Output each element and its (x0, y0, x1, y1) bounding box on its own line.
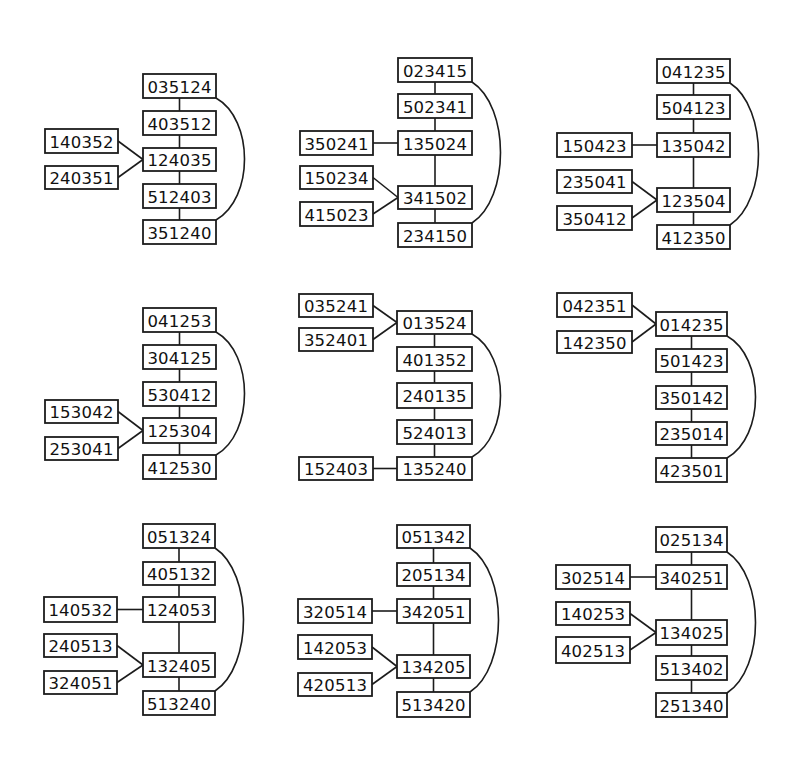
node-label: 302514 (561, 569, 625, 588)
graph-node: 125304 (143, 418, 216, 443)
node-label: 513240 (147, 695, 211, 714)
edge-s2-d (372, 647, 397, 667)
node-label: 513402 (659, 660, 723, 679)
diagram-8: 0513422051343420511342055134203205141420… (298, 525, 499, 717)
graph-node: 501423 (656, 349, 727, 372)
diagram-9: 0251343402511340255134022513403025141402… (556, 527, 756, 717)
node-label: 235014 (659, 425, 723, 444)
graph-node: 051324 (143, 524, 215, 548)
graph-node: 324051 (44, 671, 117, 694)
graph-node: 132405 (143, 653, 215, 677)
node-label: 352401 (304, 331, 368, 350)
node-label: 512403 (147, 188, 211, 207)
connecting-arc (470, 548, 499, 692)
connecting-arc (472, 334, 501, 457)
edge-s2-a (373, 323, 397, 340)
graph-node: 150234 (300, 166, 373, 189)
edge-s1-a (632, 305, 656, 324)
node-label: 132405 (147, 657, 211, 676)
node-label: 524013 (402, 424, 466, 443)
graph-node: 240351 (45, 166, 118, 189)
node-label: 405132 (147, 565, 211, 584)
graph-node: 135042 (657, 133, 730, 157)
node-label: 240351 (49, 169, 113, 188)
node-label: 324051 (48, 674, 112, 693)
graph-node: 412530 (143, 455, 216, 479)
connecting-arc (216, 98, 245, 220)
graph-node: 123504 (657, 188, 730, 212)
node-label: 051342 (401, 528, 465, 547)
graph-node: 240135 (397, 383, 472, 408)
node-label: 403512 (147, 115, 211, 134)
graph-node: 423501 (656, 458, 727, 482)
node-label: 134205 (401, 658, 465, 677)
diagram-1: 0351244035121240355124033512401403522403… (45, 74, 245, 244)
graph-node: 415023 (300, 202, 373, 226)
graph-node: 041235 (657, 59, 730, 83)
graph-node: 513402 (656, 656, 727, 680)
diagram-5: 0135244013522401355240131352400352413524… (299, 294, 501, 480)
node-label: 350412 (562, 210, 626, 229)
edge-s2-c (118, 160, 143, 178)
node-label: 402513 (561, 642, 625, 661)
connecting-arc (730, 83, 759, 225)
graph-node: 253041 (45, 437, 118, 460)
edge-s2-d (118, 431, 143, 449)
graph-node: 304125 (143, 345, 216, 369)
graph-node: 142350 (557, 331, 632, 353)
graph-node: 340251 (656, 565, 727, 589)
graph-node: 135240 (397, 457, 472, 480)
graph-node: 405132 (143, 562, 215, 585)
node-label: 341502 (403, 189, 467, 208)
node-label: 041235 (661, 63, 725, 82)
edge-s1-d (118, 412, 143, 431)
node-label: 340251 (659, 569, 723, 588)
graph-node: 251340 (656, 693, 727, 717)
edge-s2-d (632, 182, 657, 201)
graph-node: 504123 (657, 95, 730, 119)
node-label: 420513 (303, 676, 367, 695)
node-label: 240135 (402, 387, 466, 406)
edge-s2-a (632, 324, 656, 342)
graph-node: 140352 (45, 129, 118, 153)
graph-node: 051342 (397, 525, 470, 548)
node-label: 205134 (401, 566, 465, 585)
node-label: 042351 (562, 297, 626, 316)
edge-s3-d (372, 667, 397, 685)
node-label: 041253 (147, 312, 211, 331)
graph-node: 134205 (397, 655, 470, 678)
graph-node: 035241 (299, 294, 373, 317)
node-label: 135042 (661, 137, 725, 156)
graph-node: 350142 (656, 386, 727, 409)
node-label: 142350 (562, 334, 626, 353)
graph-node: 420513 (298, 673, 372, 696)
edge-s2-d (373, 178, 398, 198)
node-label: 351240 (147, 224, 211, 243)
edge-s2-c (630, 614, 656, 633)
node-label: 350241 (304, 135, 368, 154)
graph-node: 153042 (45, 400, 118, 423)
graph-node: 403512 (143, 111, 216, 135)
diagram-7: 0513244051321240531324055132401405322405… (44, 524, 244, 715)
graph-node: 235041 (557, 170, 632, 193)
node-label: 412350 (661, 229, 725, 248)
graph-node: 502341 (398, 94, 472, 118)
graph-node: 140532 (44, 597, 117, 622)
graph-node: 142053 (298, 635, 372, 659)
diagram-3: 0412355041231350421235044123501504232350… (557, 59, 759, 249)
connecting-arc (727, 336, 756, 458)
graph-node: 023415 (398, 58, 472, 82)
node-label: 320514 (303, 603, 367, 622)
graph-node: 124035 (143, 148, 216, 171)
node-label: 125304 (147, 422, 211, 441)
graph-node: 512403 (143, 184, 216, 208)
diagram-6: 0142355014233501422350144235010423511423… (557, 293, 756, 482)
node-label: 240513 (48, 637, 112, 656)
graph-node: 124053 (143, 597, 215, 622)
graph-node: 134025 (656, 620, 727, 645)
diagram-4: 0412533041255304121253044125301530422530… (45, 308, 245, 479)
graph-node: 041253 (143, 308, 216, 332)
node-label: 304125 (147, 349, 211, 368)
edge-s1-a (373, 306, 397, 323)
node-label: 153042 (49, 403, 113, 422)
